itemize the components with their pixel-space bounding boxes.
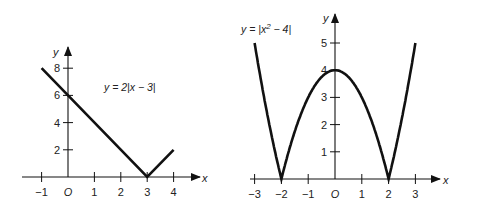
x-tick-label: −1	[35, 186, 48, 198]
x-tick-label: −3	[248, 188, 261, 200]
y-axis-label: y	[52, 46, 60, 58]
y-tick-label: 1	[321, 146, 327, 158]
x-tick-label: 1	[91, 186, 97, 198]
x-tick-label: −2	[275, 188, 288, 200]
x-tick-label: 2	[118, 186, 124, 198]
equation-base: y = |x	[240, 23, 267, 35]
y-tick-label: 2	[54, 144, 60, 156]
x-tick-label: −1	[302, 188, 315, 200]
x-tick-label: 3	[144, 186, 150, 198]
equation-label: y = 2|x − 3|	[103, 81, 156, 93]
y-tick-label: 5	[321, 37, 327, 49]
equation-tail: − 4|	[271, 23, 292, 35]
x-tick-label: 3	[412, 188, 418, 200]
chart-abs-quadratic: −3−2−1O12312345 x y y = |x2 − 4|	[240, 12, 449, 200]
y-tick-label: 2	[321, 119, 327, 131]
equation-label: y = |x2 − 4|	[240, 22, 291, 35]
x-tick-label: O	[331, 188, 340, 200]
y-tick-label: 6	[54, 89, 60, 101]
figure: −1O12342468 x y y = 2|x − 3| −3−2−1O1231…	[0, 0, 477, 214]
y-tick-label: 4	[54, 117, 60, 129]
x-tick-label: 1	[359, 188, 365, 200]
y-tick-label: 3	[321, 91, 327, 103]
x-tick-label: O	[64, 186, 73, 198]
x-axis-label: x	[442, 174, 449, 186]
x-tick-label: 4	[171, 186, 177, 198]
chart-abs-linear: −1O12342468 x y y = 2|x − 3|	[22, 46, 208, 198]
x-tick-label: 2	[386, 188, 392, 200]
x-axis-label: x	[201, 172, 208, 184]
y-axis-label: y	[322, 12, 330, 24]
y-tick-label: 8	[54, 62, 60, 74]
